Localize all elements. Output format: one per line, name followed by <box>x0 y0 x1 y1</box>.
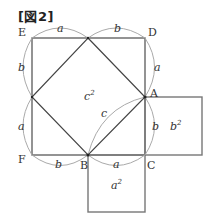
label-hypotenuse-c: c <box>101 107 107 120</box>
point-c-label: C <box>147 159 155 172</box>
pythagorean-diagram: E D A F B C a b a b b a b a c c2 b2 a2 <box>0 0 214 222</box>
label-top-b: b <box>114 22 121 35</box>
point-f-label: F <box>18 153 26 166</box>
label-bottom-b: b <box>55 158 62 171</box>
point-d-label: D <box>148 26 157 39</box>
point-a-label: A <box>149 87 159 100</box>
label-left-b: b <box>18 61 25 74</box>
area-b2: b2 <box>170 119 182 133</box>
area-c2: c2 <box>84 89 95 103</box>
label-right-b: b <box>152 120 159 133</box>
label-top-a: a <box>57 22 64 35</box>
label-left-a: a <box>18 120 25 133</box>
point-b-label: B <box>80 159 88 172</box>
label-right-a: a <box>154 61 161 74</box>
point-e-label: E <box>18 26 26 39</box>
area-a2: a2 <box>111 178 123 192</box>
label-bottom-a: a <box>113 158 120 171</box>
